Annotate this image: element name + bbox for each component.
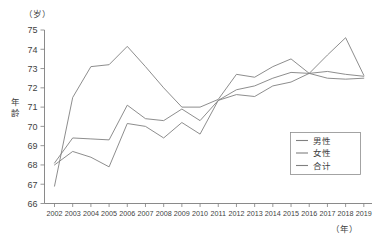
y-tick-label: 74 (27, 45, 37, 55)
legend-label-1: 女性 (313, 148, 331, 158)
y-tick-label: 72 (27, 83, 37, 93)
y-tick-label: 69 (27, 141, 37, 151)
x-tick-label: 2018 (338, 209, 354, 218)
x-tick-label: 2017 (319, 209, 335, 218)
x-tick-label: 2009 (174, 209, 190, 218)
x-tick-label: 2004 (83, 209, 99, 218)
x-tick-label: 2006 (119, 209, 135, 218)
x-tick-group: 2002200320042005200620072008200920102011… (47, 204, 372, 218)
legend-label-2: 合计 (313, 161, 331, 171)
x-tick-label: 2011 (211, 209, 226, 218)
x-tick-label: 2002 (47, 209, 63, 218)
chart-legend: 男性女性合计 (291, 133, 361, 175)
y-unit-label-group: （岁） (24, 9, 51, 19)
x-axis-title: （年） (331, 224, 358, 234)
y-tick-label: 70 (27, 122, 37, 132)
x-tick-label: 2019 (356, 209, 372, 218)
x-tick-label: 2003 (65, 209, 81, 218)
x-tick-label: 2007 (137, 209, 153, 218)
y-tick-label: 71 (27, 102, 37, 112)
chart-container: （岁） 年 龄 （年） 66676869707172737475 2002200… (0, 0, 379, 239)
y-tick-label: 73 (27, 64, 37, 74)
x-tick-label: 2016 (301, 209, 317, 218)
x-tick-label: 2014 (265, 209, 281, 218)
x-tick-label: 2005 (101, 209, 117, 218)
y-tick-group: 66676869707172737475 (27, 25, 44, 209)
x-tick-label: 2008 (156, 209, 172, 218)
legend-label-0: 男性 (313, 136, 331, 146)
y-tick-label: 68 (27, 160, 37, 170)
y-tick-label: 67 (27, 180, 37, 190)
y-tick-label: 66 (27, 199, 37, 209)
x-tick-label: 2012 (228, 209, 244, 218)
y-axis-title-line1: 年 (11, 97, 20, 107)
y-tick-label: 75 (27, 25, 37, 35)
x-tick-label: 2015 (283, 209, 299, 218)
y-axis-title-line2: 龄 (11, 108, 20, 118)
x-tick-label: 2013 (247, 209, 263, 218)
line-chart: （岁） 年 龄 （年） 66676869707172737475 2002200… (0, 0, 379, 239)
y-unit-label: （岁） (24, 9, 51, 19)
x-tick-label: 2010 (192, 209, 208, 218)
